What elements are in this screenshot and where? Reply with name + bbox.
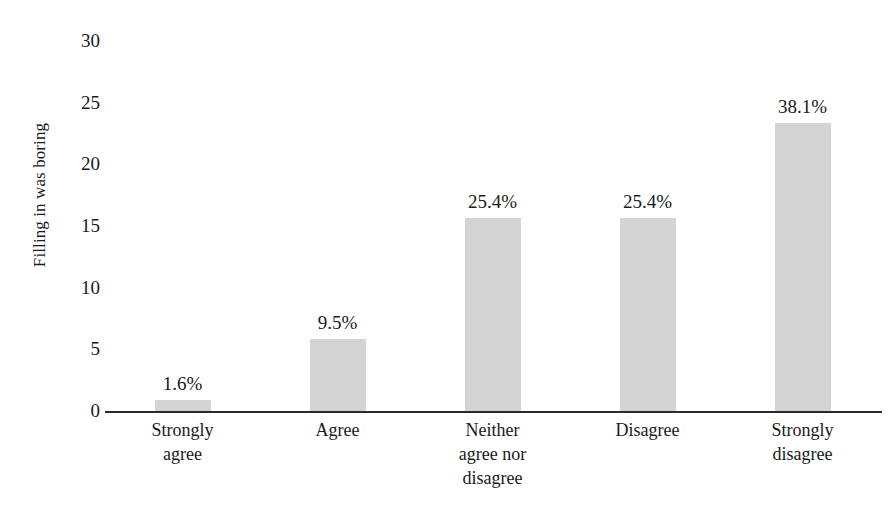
x-axis-category-label: Agree	[260, 418, 415, 442]
x-axis-category-line: disagree	[725, 442, 880, 466]
x-axis-category-label: Neitheragree nordisagree	[415, 418, 570, 490]
x-axis-category-line: Strongly	[725, 418, 880, 442]
bar-value-label: 25.4%	[623, 192, 672, 211]
bar-value-label: 9.5%	[318, 313, 358, 332]
bar	[465, 218, 521, 412]
y-axis-tick-label: 0	[60, 401, 100, 420]
x-axis-category-line: Neither	[415, 418, 570, 442]
x-axis-category-line: agree	[105, 442, 260, 466]
bar-value-label: 25.4%	[468, 192, 517, 211]
plot-area: 1.6%9.5%25.4%25.4%38.1%	[105, 0, 880, 412]
bar-value-label: 1.6%	[163, 374, 203, 393]
x-axis-category-label: Disagree	[570, 418, 725, 442]
bar	[620, 218, 676, 412]
x-axis-category-line: disagree	[415, 466, 570, 490]
x-axis-category-line: Agree	[260, 418, 415, 442]
x-axis-labels: StronglyagreeAgreeNeitheragree nordisagr…	[105, 418, 880, 518]
y-axis-ticks: 051015202530	[55, 0, 100, 519]
x-axis-line	[105, 411, 882, 413]
y-axis-tick-label: 10	[60, 278, 100, 297]
bar	[775, 123, 831, 412]
y-axis-tick-label: 5	[60, 339, 100, 358]
bar-group: 25.4%	[570, 0, 725, 412]
bar-group: 1.6%	[105, 0, 260, 412]
y-axis-title: Filling in was boring	[30, 85, 50, 305]
x-axis-category-line: Strongly	[105, 418, 260, 442]
y-axis-tick-label: 15	[60, 216, 100, 235]
x-axis-category-label: Stronglyagree	[105, 418, 260, 466]
bar-group: 9.5%	[260, 0, 415, 412]
x-axis-category-line: Disagree	[570, 418, 725, 442]
bar-group: 38.1%	[725, 0, 880, 412]
y-axis-tick-label: 30	[60, 31, 100, 50]
x-axis-category-label: Stronglydisagree	[725, 418, 880, 466]
bar-value-label: 38.1%	[778, 97, 827, 116]
y-axis-tick-label: 25	[60, 93, 100, 112]
bar-chart: Filling in was boring 051015202530 1.6%9…	[0, 0, 892, 519]
x-axis-category-line: agree nor	[415, 442, 570, 466]
bar-group: 25.4%	[415, 0, 570, 412]
y-axis-tick-label: 20	[60, 154, 100, 173]
bar	[310, 339, 366, 412]
